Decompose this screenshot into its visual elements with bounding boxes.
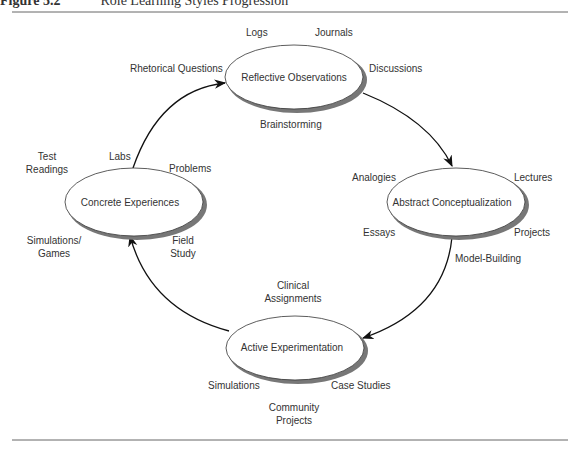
arrow-concrete-to-reflective — [133, 83, 225, 168]
node-label: Abstract Conceptualization — [393, 197, 512, 208]
label-games: Games — [38, 248, 70, 259]
label-brainstorming: Brainstorming — [260, 119, 322, 130]
node-reflective-observations: Reflective Observations — [225, 45, 367, 113]
label-lectures: Lectures — [514, 172, 552, 183]
label-simulations-games: Simulations/ — [27, 235, 82, 246]
label-test: Test — [38, 151, 57, 162]
label-clinical: Clinical — [277, 280, 309, 291]
learning-cycle-diagram: Reflective Observations Abstract Concept… — [0, 0, 581, 449]
label-simulations: Simulations — [208, 380, 260, 391]
label-discussions: Discussions — [369, 63, 422, 74]
arrow-reflective-to-abstract — [363, 93, 452, 166]
node-label: Reflective Observations — [241, 72, 347, 83]
label-case-studies: Case Studies — [331, 380, 390, 391]
label-field: Field — [172, 235, 194, 246]
label-rhetorical-questions: Rhetorical Questions — [130, 63, 223, 74]
label-assignments: Assignments — [264, 293, 321, 304]
label-problems: Problems — [169, 163, 211, 174]
label-community-projects: Projects — [276, 415, 312, 426]
node-label: Active Experimentation — [241, 342, 343, 353]
label-readings: Readings — [26, 164, 68, 175]
node-concrete-experiences: Concrete Experiences — [65, 168, 207, 240]
label-projects: Projects — [514, 227, 550, 238]
node-abstract-conceptualization: Abstract Conceptualization — [387, 168, 529, 240]
node-active-experimentation: Active Experimentation — [226, 316, 368, 384]
label-essays: Essays — [363, 227, 395, 238]
arrow-abstract-to-active — [363, 237, 452, 338]
node-label: Concrete Experiences — [81, 197, 179, 208]
label-analogies: Analogies — [352, 172, 396, 183]
label-logs: Logs — [246, 27, 268, 38]
label-labs: Labs — [109, 151, 131, 162]
label-model-building: Model-Building — [455, 253, 521, 264]
label-journals: Journals — [315, 27, 353, 38]
label-study: Study — [170, 248, 196, 259]
label-community: Community — [269, 402, 320, 413]
